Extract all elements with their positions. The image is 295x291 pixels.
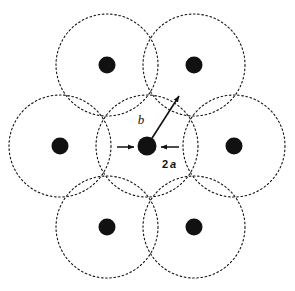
label-b: b <box>138 112 145 127</box>
dot-bottom-left <box>99 219 116 236</box>
dot-bottom-right <box>186 219 203 236</box>
dot-middle-right <box>226 138 243 155</box>
fiber-packing-diagram: b 2 a <box>0 0 295 291</box>
dot-top-right <box>186 57 203 74</box>
dot-center <box>138 137 157 156</box>
dot-middle-left <box>52 138 69 155</box>
figure-root: b 2 a <box>0 0 295 291</box>
label-2a: 2 a <box>162 158 176 170</box>
label-2a-variable: a <box>170 158 176 170</box>
label-2a-number: 2 <box>162 158 168 170</box>
dot-top-left <box>99 57 116 74</box>
